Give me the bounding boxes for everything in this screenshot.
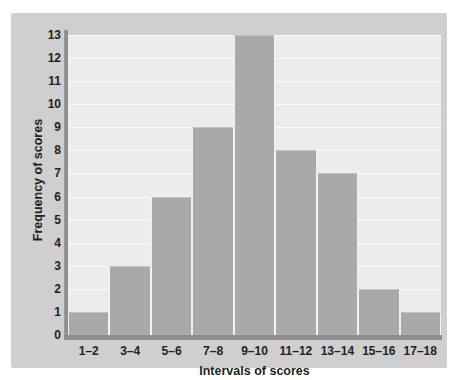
y-axis-tick-label: 8 xyxy=(15,144,61,156)
histogram-bar xyxy=(68,312,109,335)
chart-panel: Frequency of scores 131211109876543210 1… xyxy=(11,13,447,368)
plot-area xyxy=(68,35,441,335)
histogram-bar xyxy=(151,197,192,335)
y-axis-tick-label: 12 xyxy=(15,52,61,64)
histogram-bar xyxy=(358,289,399,335)
x-axis-tick-label: 3–4 xyxy=(109,344,150,358)
y-axis-tick-label: 0 xyxy=(15,329,61,341)
histogram-bar xyxy=(192,127,233,335)
x-axis-tick-label: 13–14 xyxy=(317,344,358,358)
y-axis-tick-label: 13 xyxy=(15,29,61,41)
y-axis-tick-label: 2 xyxy=(15,283,61,295)
x-axis-tick-label: 5–6 xyxy=(151,344,192,358)
y-axis-tick-label: 6 xyxy=(15,191,61,203)
x-axis-tick-label: 17–18 xyxy=(400,344,441,358)
y-axis-tick-label: 7 xyxy=(15,167,61,179)
histogram-figure: Frequency of scores 131211109876543210 1… xyxy=(0,0,457,380)
histogram-bar xyxy=(275,150,316,335)
y-axis-tick-label: 3 xyxy=(15,260,61,272)
histogram-bar xyxy=(109,266,150,335)
x-axis-title: Intervals of scores xyxy=(68,364,441,378)
histogram-bar xyxy=(234,35,275,335)
histogram-bar xyxy=(317,173,358,335)
x-axis-tick-label: 7–8 xyxy=(192,344,233,358)
y-axis-tick-label: 9 xyxy=(15,121,61,133)
x-axis-tick-label: 1–2 xyxy=(68,344,109,358)
y-axis-tick-label: 10 xyxy=(15,98,61,110)
y-axis-tick-label: 11 xyxy=(15,75,61,87)
x-axis-line xyxy=(64,335,442,340)
y-axis-tick-label: 5 xyxy=(15,214,61,226)
x-axis-tick-labels: 1–23–45–67–89–1011–1213–1415–1617–18 xyxy=(68,344,441,362)
y-axis-tick-label: 4 xyxy=(15,237,61,249)
y-axis-tick-labels: 131211109876543210 xyxy=(11,13,61,380)
x-axis-tick-label: 9–10 xyxy=(234,344,275,358)
y-axis-tick-label: 1 xyxy=(15,306,61,318)
histogram-bar xyxy=(400,312,441,335)
x-axis-tick-label: 11–12 xyxy=(275,344,316,358)
x-axis-tick-label: 15–16 xyxy=(358,344,399,358)
